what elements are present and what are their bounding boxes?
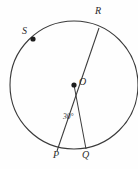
point-label-q: Q — [82, 150, 89, 160]
point-label-o: O — [79, 77, 86, 87]
geometry-canvas — [0, 0, 138, 169]
center-point-dot — [71, 82, 76, 87]
point-label-s: S — [22, 26, 27, 36]
angle-label-poq: 30° — [63, 113, 74, 121]
point-label-p: P — [53, 150, 59, 160]
point-label-r: R — [95, 6, 101, 16]
segment-oq — [74, 85, 86, 149]
segment-rp — [57, 28, 99, 151]
geometry-figure: R S O P Q 30° — [0, 0, 138, 169]
point-s-dot — [30, 36, 35, 41]
